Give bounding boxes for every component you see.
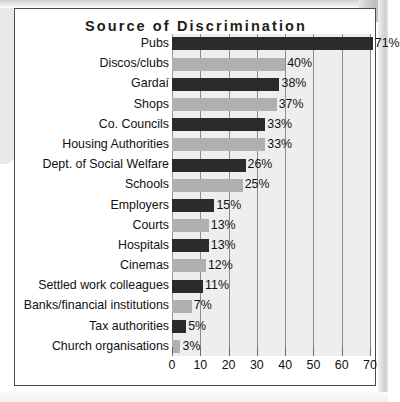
x-tick-label-0: 0 [169, 358, 176, 372]
bar-row: Co. Councils33% [15, 115, 377, 135]
bar-row: Employers15% [15, 196, 377, 216]
bar-value-label: 11% [205, 278, 229, 292]
bar-category-label: Discos/clubs [99, 56, 169, 70]
chart-title: Source of Discrimination [15, 18, 377, 34]
bar-value-label: 33% [267, 117, 292, 131]
bar-category-label: Housing Authorities [62, 137, 169, 151]
x-tick-mark-30 [257, 347, 258, 356]
bar-category-label: Church organisations [52, 339, 169, 353]
x-tick-label-60: 60 [335, 358, 349, 372]
bar-value-label: 26% [248, 157, 273, 171]
bar-value-label: 5% [188, 319, 206, 333]
bar [172, 78, 279, 91]
bar-row: Schools25% [15, 175, 377, 195]
x-tick-mark-20 [229, 347, 230, 356]
bar-row: Courts13% [15, 216, 377, 236]
bar-value-label: 3% [182, 339, 200, 353]
bar-category-label: Shops [134, 97, 169, 111]
bar-value-label: 37% [279, 97, 304, 111]
bar [172, 219, 209, 232]
bar-row: Hospitals13% [15, 236, 377, 256]
bar [172, 239, 209, 252]
bar-row: Discos/clubs40% [15, 54, 377, 74]
x-tick-label-30: 30 [250, 358, 264, 372]
x-tick-mark-0 [172, 347, 173, 356]
x-tick-mark-40 [285, 347, 286, 356]
bar-value-label: 33% [267, 137, 292, 151]
bar-category-label: Schools [125, 177, 169, 191]
bar-value-label: 12% [208, 258, 233, 272]
bar-category-label: Co. Councils [99, 117, 169, 131]
bar-row: Settled work colleagues11% [15, 276, 377, 296]
x-tick-label-20: 20 [222, 358, 236, 372]
bar [172, 280, 203, 293]
bar-value-label: 13% [211, 218, 236, 232]
bar-category-label: Employers [110, 198, 169, 212]
page-edge-bottom [0, 392, 388, 402]
bar-category-label: Cinemas [120, 258, 169, 272]
bar-row: Housing Authorities33% [15, 135, 377, 155]
bar [172, 300, 192, 313]
x-tick-label-40: 40 [278, 358, 292, 372]
bar-row: Tax authorities5% [15, 317, 377, 337]
x-tick-mark-70 [370, 347, 371, 356]
bar-row: Gardaí38% [15, 74, 377, 94]
x-tick-mark-60 [342, 347, 343, 356]
bar-category-label: Pubs [141, 36, 169, 50]
bar-value-label: 38% [281, 76, 306, 90]
bar-row: Cinemas12% [15, 256, 377, 276]
bar-row: Church organisations3% [15, 337, 377, 357]
bar [172, 199, 214, 212]
bar-row: Pubs71% [15, 34, 377, 54]
bar-row: Shops37% [15, 95, 377, 115]
page-edge-top [0, 0, 388, 7]
x-tick-mark-10 [200, 347, 201, 356]
x-tick-label-10: 10 [193, 358, 207, 372]
bar [172, 138, 265, 151]
page-edge-right [378, 0, 388, 402]
bar [172, 179, 243, 192]
bar-row: Banks/financial institutions7% [15, 296, 377, 316]
plot-area: Pubs71%Discos/clubs40%Gardaí38%Shops37%C… [15, 34, 377, 382]
bar-value-label: 13% [211, 238, 236, 252]
bar-value-label: 71% [375, 36, 400, 50]
bar-value-label: 25% [245, 177, 270, 191]
x-tick-mark-50 [313, 347, 314, 356]
bar [172, 259, 206, 272]
bar-category-label: Settled work colleagues [38, 278, 169, 292]
bar-category-label: Gardaí [131, 76, 169, 90]
bar-category-label: Dept. of Social Welfare [43, 157, 170, 171]
bar-category-label: Banks/financial institutions [24, 298, 169, 312]
bar-category-label: Hospitals [118, 238, 169, 252]
bar [172, 320, 186, 333]
bar-value-label: 15% [216, 198, 241, 212]
x-tick-label-70: 70 [363, 358, 377, 372]
bar-row: Dept. of Social Welfare26% [15, 155, 377, 175]
bar [172, 98, 277, 111]
bar-category-label: Tax authorities [89, 319, 169, 333]
bar-category-label: Courts [133, 218, 170, 232]
bar [172, 37, 373, 50]
bar [172, 340, 180, 353]
bar [172, 118, 265, 131]
x-tick-label-50: 50 [307, 358, 321, 372]
bar-rows: Pubs71%Discos/clubs40%Gardaí38%Shops37%C… [15, 34, 377, 357]
bar [172, 58, 285, 71]
bar-value-label: 7% [194, 298, 212, 312]
bar-value-label: 40% [287, 56, 312, 70]
chart-frame: Source of Discrimination Pubs71%Discos/c… [14, 8, 376, 386]
x-axis: 010203040506070 [15, 356, 377, 382]
bar [172, 159, 246, 172]
